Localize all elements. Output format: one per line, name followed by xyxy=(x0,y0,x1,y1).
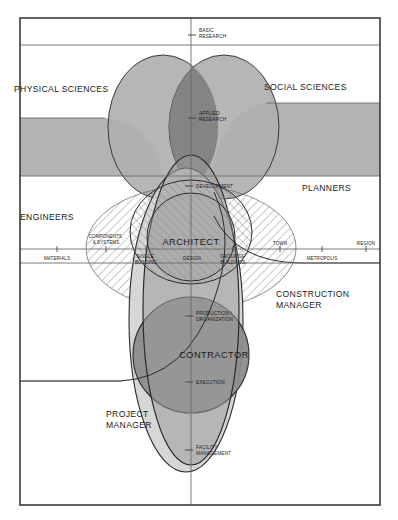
tick-design: DESIGN xyxy=(183,256,201,261)
label-social-sciences: SOCIAL SCIENCES xyxy=(264,82,347,92)
tick-execution: EXECUTION xyxy=(196,380,225,385)
label-planners: PLANNERS xyxy=(302,183,351,193)
tick-region: REGION xyxy=(357,241,375,246)
tick-single-building: SINGLE BUILDING xyxy=(135,254,157,265)
tick-town: TOWN xyxy=(273,241,287,246)
tick-development: DEVELOPMENT xyxy=(196,184,233,189)
diagram-canvas: PHYSICAL SCIENCES SOCIAL SCIENCES ENGINE… xyxy=(0,0,398,520)
roles-venn-diagram: PHYSICAL SCIENCES SOCIAL SCIENCES ENGINE… xyxy=(0,0,398,520)
label-physical-sciences: PHYSICAL SCIENCES xyxy=(14,84,108,94)
label-engineers: ENGINEERS xyxy=(20,212,74,222)
tick-group-of-buildings: GROUP OF BUILDINGS xyxy=(220,254,246,265)
tick-materials: MATERIALS xyxy=(44,256,70,261)
tick-components-systems: COMPONENTS & SYSTEMS xyxy=(89,234,124,245)
label-architect: ARCHITECT xyxy=(162,237,219,247)
label-contractor: CONTRACTOR xyxy=(179,350,249,360)
label-project-manager: PROJECT MANAGER xyxy=(106,409,152,430)
tick-production-organization: PRODUCTION / ORGANIZATION xyxy=(196,311,233,322)
tick-metropolis: METROPOLIS xyxy=(307,256,338,261)
